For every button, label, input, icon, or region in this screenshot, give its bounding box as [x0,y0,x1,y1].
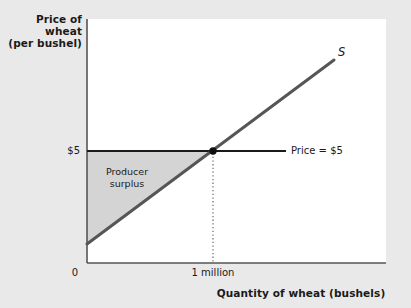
equilibrium-point [209,147,216,154]
y-axis-title: Price of wheat (per bushel) [0,13,82,50]
x-axis-tick-label-1-million: 1 million [180,267,246,278]
producer-surplus-figure: Price of wheat (per bushel) Quantity of … [0,0,411,308]
y-axis-tick-label-5: $5 [52,145,80,156]
x-axis-title: Quantity of wheat (bushels) [196,287,406,299]
supply-curve-label: S [338,45,345,59]
x-axis-tick-label-0: 0 [68,267,82,278]
producer-surplus-label: Producer surplus [95,166,159,189]
price-line-label: Price = $5 [291,145,343,156]
